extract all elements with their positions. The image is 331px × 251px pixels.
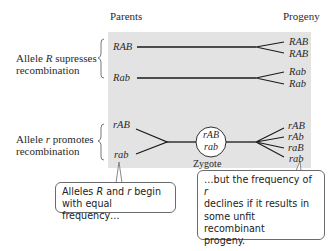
progeny-raB: raB (288, 143, 304, 154)
parent-rab: rab (114, 150, 129, 161)
progeny-rAB: rAB (288, 121, 305, 132)
progeny-Rab-1: Rab (289, 67, 306, 78)
group-label-R: Allele R supresses recombination (16, 53, 97, 76)
callout-frequency-declines: …but the frequency of r declines if it r… (197, 170, 325, 240)
brace-bottom (98, 124, 104, 160)
recombination-diagram: Parents Progeny Allele R supresses recom… (0, 0, 331, 251)
zygote-genotype-top: rAB (199, 130, 223, 140)
parents-header: Parents (110, 11, 142, 22)
parent-RAB: RAB (113, 42, 132, 53)
progeny-rab: rab (289, 154, 304, 165)
progeny-RAB-2: RAB (289, 49, 308, 60)
progeny-Rab-2: Rab (289, 79, 306, 90)
progeny-rAb: rAb (288, 132, 304, 143)
parent-rAB: rAB (113, 120, 130, 131)
progeny-RAB-1: RAB (289, 37, 308, 48)
callout-equal-frequency: Alleles R and r begin with equal frequen… (55, 182, 176, 213)
zygote-label: Zygote (193, 159, 221, 169)
group-label-r: Allele r promotes recombination (16, 134, 94, 157)
progeny-header: Progeny (283, 11, 320, 22)
parent-Rab: Rab (113, 73, 130, 84)
zygote-genotype-bottom: rab (199, 142, 223, 152)
brace-top (98, 39, 104, 78)
